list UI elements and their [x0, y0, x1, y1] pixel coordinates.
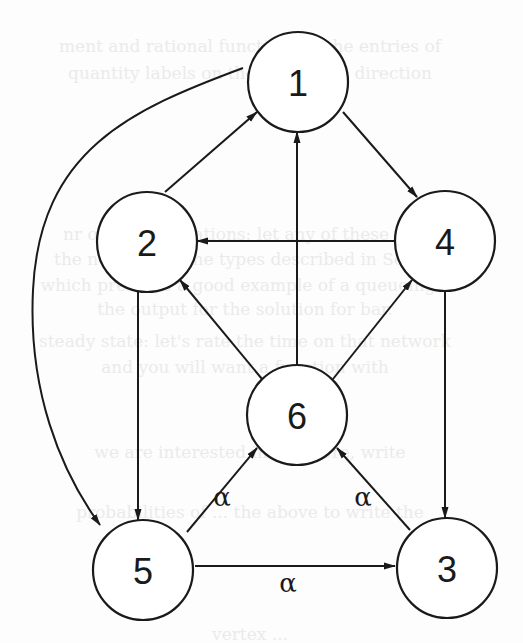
- node-4: 4: [395, 191, 495, 291]
- node-5: 5: [93, 520, 193, 620]
- bleed-text-line: we are interested in and here, write: [94, 442, 405, 462]
- node-6: 6: [247, 365, 347, 465]
- node-label: 1: [288, 63, 308, 104]
- node-label: 3: [437, 549, 457, 590]
- bleed-text-line: ment and rational functions of the entri…: [59, 36, 443, 56]
- directed-graph-diagram: ment and rational functions of the entri…: [0, 0, 523, 643]
- bleed-text-line: steady state: let's rate the time on tha…: [39, 331, 452, 351]
- node-1: 1: [248, 32, 348, 132]
- node-label: 6: [287, 396, 307, 437]
- edge-labels: ααα: [213, 482, 372, 598]
- edge-1-to-4: [343, 112, 417, 197]
- bleed-text-line: the output for the solution for bar.: [97, 299, 393, 319]
- node-label: 4: [435, 222, 455, 263]
- bleed-text-line: vertex ...: [211, 624, 288, 643]
- node-label: 2: [137, 223, 157, 264]
- node-2: 2: [97, 192, 197, 292]
- edge-label-5-to-3: α: [279, 568, 297, 598]
- bleed-text-line: which presents a good example of a queue…: [40, 275, 449, 295]
- edge-label-3-to-6: α: [354, 482, 372, 512]
- edge-label-5-to-6: α: [213, 482, 231, 512]
- nodes: 123456: [93, 32, 497, 620]
- node-label: 5: [133, 551, 153, 592]
- node-3: 3: [397, 518, 497, 618]
- edge-2-to-1: [165, 112, 257, 192]
